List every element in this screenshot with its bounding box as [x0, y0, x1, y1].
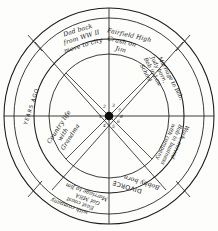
divider-tick-sw — [28, 181, 42, 197]
segment-6-label: Bobby born DIVORCE — [111, 170, 161, 200]
segment-3-line-3: Jim — [113, 44, 127, 55]
segment-3-label: Fairfield High Crush on Jim — [102, 26, 152, 60]
spoke-number-1: 1 — [99, 114, 102, 119]
wheel-hub — [105, 112, 114, 121]
spoke-number-7: 7 — [118, 108, 121, 113]
divider-tick-nw — [28, 35, 42, 51]
wheel-canvas: 1 2 3 4 5 6 7 8 YEARS AGO Country life w… — [0, 0, 218, 231]
hub-spoke-2 — [66, 73, 109, 116]
spoke-number-6: 6 — [117, 119, 120, 124]
hub-spoke-3 — [109, 73, 152, 116]
years-ago-text: YEARS AGO — [22, 87, 40, 126]
spoke-number-2: 2 — [102, 104, 106, 109]
segment-7-label: Marriage to Jim Got MBA East coast with … — [49, 178, 110, 222]
outer-ring-label-years-ago: YEARS AGO — [22, 87, 40, 126]
segment-2-label: Dad back from WW II move to city — [58, 20, 103, 55]
spoke-number-4: 4 — [102, 123, 106, 128]
segment-5-label: Work, moved Bob in business with company — [153, 119, 191, 169]
segment-4-label: Marriage to Bob, Judy born, Bob in Law S… — [137, 49, 185, 109]
spoke-number-8: 8 — [120, 114, 123, 119]
divider-tick-ne — [176, 35, 190, 51]
life-wheel-diagram: 1 2 3 4 5 6 7 8 YEARS AGO Country life w… — [0, 0, 218, 231]
divider-tick-se — [176, 181, 190, 197]
spoke-number-3: 3 — [112, 103, 115, 108]
spoke-number-5: 5 — [112, 124, 115, 129]
hub-spoke-6 — [109, 116, 152, 159]
